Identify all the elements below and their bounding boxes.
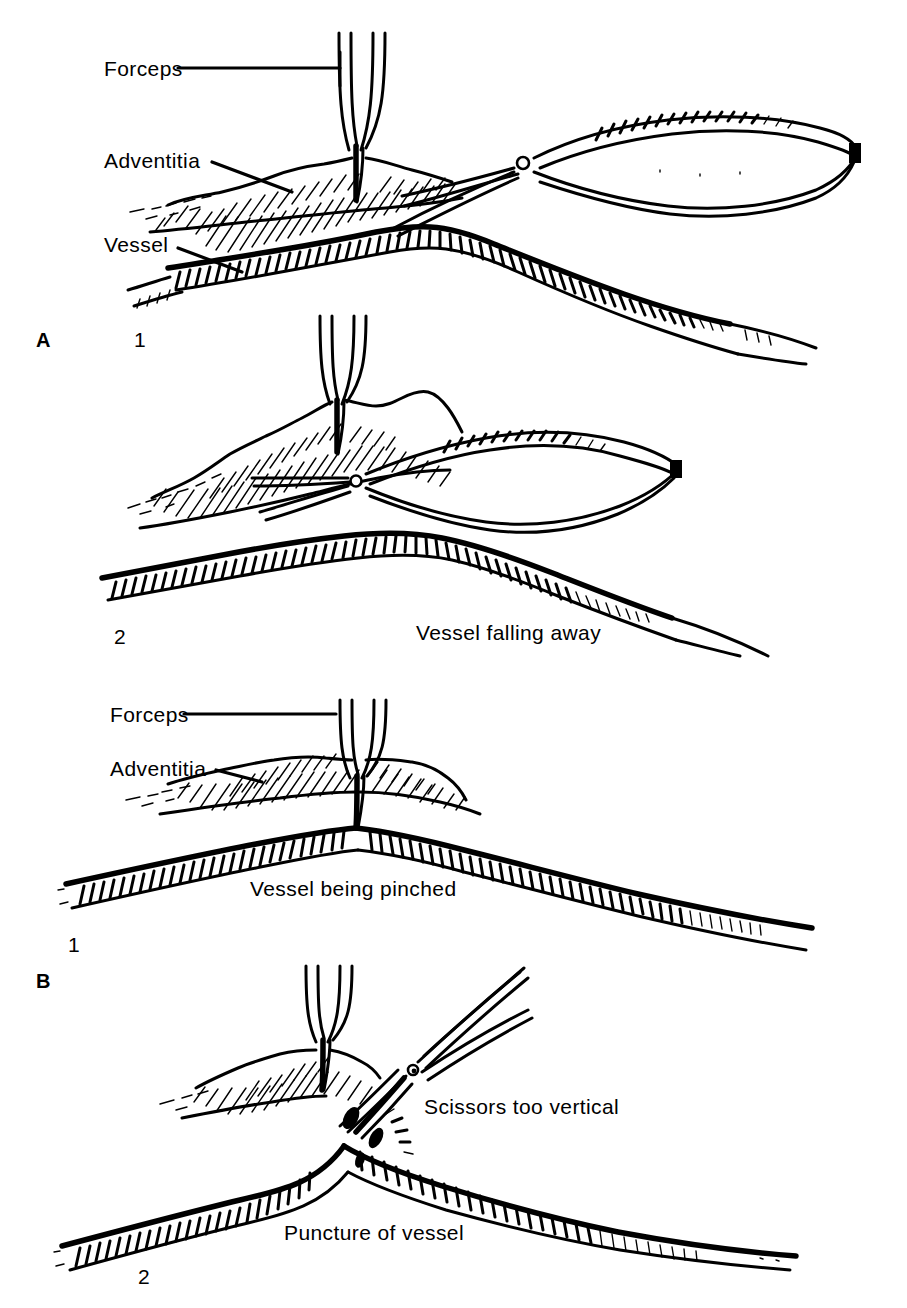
panel-number-b1: 1 bbox=[68, 933, 80, 956]
caption-vessel-falling-away: Vessel falling away bbox=[416, 621, 601, 644]
label-vessel-a1: Vessel bbox=[104, 233, 168, 256]
figure-root: Forceps Adventitia Vessel A 1 bbox=[0, 0, 907, 1308]
caption-scissors-too-vertical: Scissors too vertical bbox=[424, 1095, 619, 1118]
caption-puncture-of-vessel: Puncture of vessel bbox=[284, 1221, 464, 1244]
panel-number-a2: 2 bbox=[114, 625, 126, 648]
panel-number-a1: 1 bbox=[134, 328, 146, 351]
label-adventitia-b1: Adventitia bbox=[110, 757, 206, 780]
scissors-spring-closure-a2 bbox=[670, 460, 682, 478]
label-adventitia-a1: Adventitia bbox=[104, 149, 200, 172]
caption-vessel-being-pinched: Vessel being pinched bbox=[250, 877, 457, 900]
scissors-pivot-screw bbox=[517, 157, 529, 169]
panel-letter-a: A bbox=[36, 329, 50, 351]
panel-number-b2: 2 bbox=[138, 1265, 150, 1288]
surgical-illustration: Forceps Adventitia Vessel A 1 bbox=[0, 0, 907, 1308]
panel-letter-b: B bbox=[36, 970, 50, 992]
scissors-pivot-screw-a2 bbox=[351, 476, 362, 487]
label-forceps-a1: Forceps bbox=[104, 57, 183, 80]
label-forceps-b1: Forceps bbox=[110, 703, 189, 726]
scissors-pivot-dot-b2 bbox=[412, 1069, 417, 1074]
